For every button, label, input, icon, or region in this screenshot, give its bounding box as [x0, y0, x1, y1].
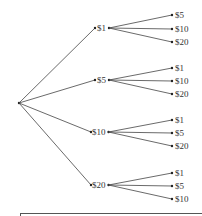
node-dot	[171, 119, 173, 121]
node-dot	[171, 14, 173, 16]
node-label: $1	[175, 115, 184, 125]
tree-diagram: $1$5$10$20$5$1$10$20$10$1$5$20$20$1$5$10	[0, 0, 202, 216]
node-dot	[171, 132, 173, 134]
node-label: $10	[175, 24, 189, 34]
node-label: $20	[175, 141, 189, 151]
node-dot	[171, 198, 173, 200]
node-label: $5	[175, 181, 184, 191]
node-label: $5	[175, 10, 184, 20]
node-label: $5	[97, 75, 106, 85]
node-label: $20	[175, 89, 189, 99]
node-label: $1	[175, 168, 184, 178]
node-label: $10	[175, 76, 189, 86]
node-label: $1	[97, 23, 106, 33]
node-dot	[171, 41, 173, 43]
node-label: $20	[175, 37, 189, 47]
bottom-box	[20, 213, 202, 216]
node-dot	[171, 185, 173, 187]
node-label: $1	[175, 63, 184, 73]
node-dot	[171, 28, 173, 30]
node-dot	[171, 67, 173, 69]
node-dot	[171, 145, 173, 147]
node-label: $20	[92, 180, 106, 190]
node-label: $10	[92, 127, 106, 137]
node-dot	[171, 80, 173, 82]
node-dot	[94, 27, 96, 29]
node-dot	[171, 93, 173, 95]
node-label: $10	[175, 194, 189, 204]
node-label: $5	[175, 128, 184, 138]
node-dot	[94, 79, 96, 81]
node-dot	[171, 172, 173, 174]
